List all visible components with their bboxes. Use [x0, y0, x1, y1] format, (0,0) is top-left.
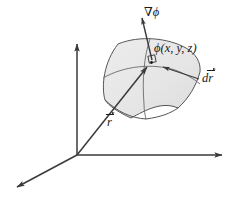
displacement-r-text: r — [208, 72, 213, 85]
scalar-field-label: ϕ(x, y, z) — [154, 42, 197, 55]
position-r-text: r — [107, 116, 112, 129]
position-vector-label: r — [107, 116, 112, 129]
vector-calculus-figure: ∇ϕ ϕ(x, y, z) dr r — [0, 0, 238, 203]
gradient-label: ∇ϕ — [144, 6, 159, 19]
axis-diagonal — [17, 155, 77, 187]
point-dot — [150, 61, 153, 64]
figure-canvas — [0, 0, 238, 203]
displacement-label: dr — [202, 72, 213, 85]
